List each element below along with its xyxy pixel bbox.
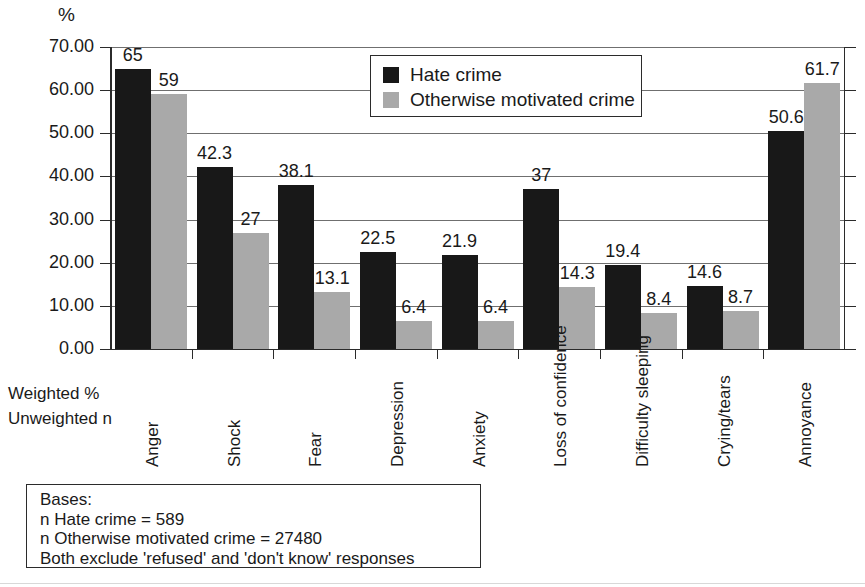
bases-exclusion-note: Both exclude 'refused' and 'don't know' … — [40, 549, 480, 569]
bases-hate-crime-n: n Hate crime = 589 — [40, 510, 480, 530]
x-axis-line — [110, 349, 845, 350]
legend-item-hate-crime: Hate crime — [383, 63, 641, 87]
y-axis-line-left — [110, 47, 112, 350]
y-axis-line-right — [844, 47, 845, 350]
y-axis-tick-label: 20.00 — [8, 252, 94, 273]
legend-label-hate-crime: Hate crime — [410, 64, 502, 86]
weighted-unweighted-note: Weighted % Unweighted n — [8, 381, 112, 431]
x-axis-category-label: Fear — [306, 432, 326, 467]
bar-value-label: 50.6 — [756, 107, 816, 128]
y-axis-tick-label: 50.00 — [8, 122, 94, 143]
x-axis-tick — [763, 350, 764, 359]
x-axis-category-label: Crying/tears — [715, 375, 735, 467]
x-axis-category-label: Depression — [388, 381, 408, 467]
bar-value-label: 19.4 — [593, 241, 653, 262]
y-axis-tick-left — [100, 90, 111, 91]
bar-value-label: 22.5 — [348, 228, 408, 249]
y-axis-tick-label: 0.00 — [8, 338, 94, 359]
y-axis-tick-label: 40.00 — [8, 165, 94, 186]
bar-value-label: 61.7 — [792, 59, 852, 80]
y-axis-tick-right — [845, 133, 856, 134]
legend-swatch-icon-hate-crime — [383, 67, 399, 83]
weighted-note-line-1: Weighted % — [8, 381, 112, 406]
x-axis-category-label: Anger — [143, 422, 163, 467]
x-axis-tick — [682, 350, 683, 359]
bar-value-label: 14.3 — [547, 263, 607, 284]
x-axis-tick — [355, 350, 356, 359]
page-bottom-rule — [0, 583, 865, 584]
bar-hate-crime — [278, 185, 314, 349]
bar-value-label: 38.1 — [266, 161, 326, 182]
bar-hate-crime — [197, 167, 233, 349]
bar-value-label: 13.1 — [302, 268, 362, 289]
y-axis-tick-right — [845, 349, 856, 350]
y-axis-tick-right — [845, 306, 856, 307]
weighted-note-line-2: Unweighted n — [8, 406, 112, 431]
bar-otherwise-motivated-crime — [314, 292, 350, 349]
bar-value-label: 27 — [221, 209, 281, 230]
legend-item-otherwise-motivated-crime: Otherwise motivated crime — [383, 88, 641, 112]
y-axis-tick-right — [845, 263, 856, 264]
bases-title: Bases: — [40, 490, 480, 510]
x-axis-category-label: Difficulty sleeping — [633, 335, 653, 467]
bar-value-label: 6.4 — [384, 297, 444, 318]
y-axis-tick-right — [845, 47, 856, 48]
y-axis-tick-left — [100, 263, 111, 264]
y-axis-tick-label: 10.00 — [8, 295, 94, 316]
y-axis-tick-left — [100, 220, 111, 221]
bar-value-label: 6.4 — [466, 297, 526, 318]
x-axis-tick — [273, 350, 274, 359]
bar-hate-crime — [115, 69, 151, 349]
bar-otherwise-motivated-crime — [723, 311, 759, 349]
y-axis-tick-right — [845, 220, 856, 221]
bar-otherwise-motivated-crime — [151, 94, 187, 349]
y-axis-tick-label: 70.00 — [8, 36, 94, 57]
y-axis-tick-left — [100, 349, 111, 350]
bar-value-label: 8.4 — [629, 289, 689, 310]
bases-note-box: Bases: n Hate crime = 589 n Otherwise mo… — [26, 484, 481, 568]
bar-value-label: 14.6 — [675, 262, 735, 283]
gridline — [110, 47, 845, 48]
x-axis-tick — [192, 350, 193, 359]
bar-value-label: 8.7 — [711, 287, 771, 308]
x-axis-category-label: Anxiety — [470, 411, 490, 467]
x-axis-category-label: Annoyance — [796, 382, 816, 467]
x-axis-tick — [600, 350, 601, 359]
bar-otherwise-motivated-crime — [396, 321, 432, 349]
bases-otherwise-motivated-n: n Otherwise motivated crime = 27480 — [40, 529, 480, 549]
x-axis-tick — [518, 350, 519, 359]
y-axis-tick-label: 60.00 — [8, 79, 94, 100]
y-axis-tick-left — [100, 306, 111, 307]
bar-value-label: 65 — [103, 45, 163, 66]
bar-value-label: 59 — [139, 70, 199, 91]
bar-value-label: 21.9 — [430, 231, 490, 252]
chart-legend: Hate crime Otherwise motivated crime — [370, 55, 642, 117]
gridline — [110, 133, 845, 134]
y-axis-tick-right — [845, 90, 856, 91]
y-axis-tick-left — [100, 176, 111, 177]
x-axis-category-label: Shock — [225, 420, 245, 467]
bar-value-label: 42.3 — [185, 143, 245, 164]
y-axis-tick-left — [100, 133, 111, 134]
x-axis-category-label: Loss of confidence — [551, 325, 571, 467]
y-axis-tick-label: 30.00 — [8, 209, 94, 230]
bar-otherwise-motivated-crime — [478, 321, 514, 349]
bar-value-label: 37 — [511, 165, 571, 186]
bar-hate-crime — [768, 131, 804, 349]
y-axis-tick-right — [845, 176, 856, 177]
x-axis-tick — [437, 350, 438, 359]
chart-figure: % 0.0010.0020.0030.0040.0050.0060.0070.0… — [0, 0, 865, 587]
legend-swatch-icon-otherwise-motivated-crime — [383, 92, 399, 108]
bar-otherwise-motivated-crime — [233, 233, 269, 349]
legend-label-otherwise-motivated-crime: Otherwise motivated crime — [410, 89, 635, 111]
